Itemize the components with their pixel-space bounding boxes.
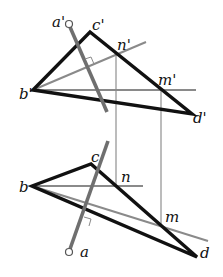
label-d-prime: d'	[193, 109, 207, 127]
label-d: d	[200, 244, 210, 262]
label-a: a	[80, 243, 89, 261]
label-n-prime: n'	[117, 36, 131, 54]
label-b: b	[19, 178, 29, 196]
label-c: c	[91, 148, 100, 166]
label-m-prime: m'	[158, 71, 176, 89]
label-a-prime: a'	[52, 13, 65, 31]
horizontal-normal-line	[70, 141, 108, 249]
point-a-icon	[66, 249, 73, 256]
label-b-prime: b'	[19, 85, 33, 103]
horizontal-line-b-m	[32, 186, 208, 241]
frontal-view: a' c' n' m' b' d'	[19, 13, 207, 127]
label-c-prime: c'	[92, 16, 105, 34]
point-a-prime-icon	[66, 21, 73, 28]
label-n: n	[121, 168, 131, 186]
projection-diagram: a' c' n' m' b' d' c b n m a d	[0, 0, 223, 277]
horizontal-right-angle-icon	[84, 217, 91, 226]
label-m: m	[165, 208, 179, 226]
horizontal-view: c b n m a d	[19, 141, 210, 262]
